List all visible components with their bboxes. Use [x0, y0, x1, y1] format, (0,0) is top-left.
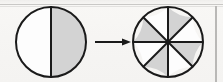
left-circle-unshaded-half — [16, 7, 51, 77]
arrow-group — [95, 39, 131, 46]
arrow-head — [122, 39, 131, 46]
right-circle-group — [133, 7, 203, 77]
scanned-figure-page — [0, 0, 223, 82]
left-circle-group — [16, 7, 86, 77]
fraction-diagram — [0, 0, 223, 82]
left-circle-shaded-half — [51, 7, 86, 77]
right-circle-center-dot — [166, 40, 170, 44]
